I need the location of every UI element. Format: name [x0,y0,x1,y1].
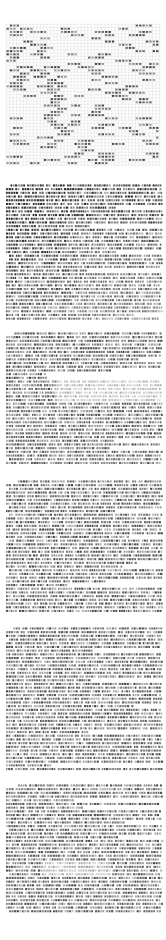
page-4-content [0,478,166,615]
page-thumbnail-1[interactable] [0,0,166,172]
page-thumbnail-3[interactable] [0,330,166,468]
page-6-content [0,782,166,915]
page-thumbnail-strip[interactable] [0,0,166,940]
page-thumbnail-6[interactable] [0,782,166,915]
page-2-content [0,182,166,322]
page-thumbnail-4[interactable] [0,478,166,615]
page-5-content [0,625,166,772]
page-3-content [0,330,166,468]
page-1-content [0,0,166,172]
page-thumbnail-5[interactable] [0,625,166,772]
page-thumbnail-2[interactable] [0,182,166,322]
